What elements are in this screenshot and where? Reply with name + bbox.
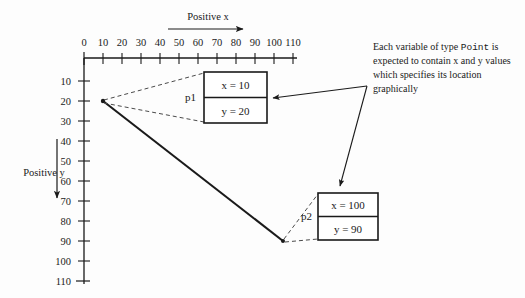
x-axis-group: 0 10 20 30 40 50 60 70 80 90 100 110 Pos… (81, 11, 300, 65)
p1-name-label: p1 (185, 91, 196, 103)
x-tick-label-60: 60 (193, 37, 204, 48)
annotation-line-1-before: Each variable of type (373, 41, 461, 52)
y-tick-label-10: 10 (61, 76, 72, 87)
y-tick-label-20: 20 (61, 96, 72, 107)
x-tick-label-70: 70 (212, 37, 223, 48)
p2-x-value: x = 100 (331, 199, 365, 211)
coordinate-diagram: 0 10 20 30 40 50 60 70 80 90 100 110 Pos… (0, 0, 525, 298)
x-tick-label-20: 20 (117, 37, 128, 48)
x-tick-label-10: 10 (98, 37, 109, 48)
p2-leader-bottom (285, 239, 318, 242)
x-tick-label-40: 40 (155, 37, 166, 48)
x-tick-label-0: 0 (81, 37, 86, 48)
annotation-note: Each variable of type Point is expected … (373, 41, 511, 94)
y-tick-label-50: 50 (61, 156, 72, 167)
positive-x-caption: Positive x (187, 11, 229, 22)
p2-name-label: p2 (301, 210, 312, 222)
point-marker-p2 (281, 239, 285, 243)
annotation-line-2: expected to contain x and y values (373, 55, 511, 66)
positive-y-caption: Positive y (23, 167, 65, 178)
y-tick-label-40: 40 (61, 136, 72, 147)
point-box-p1: x = 10 y = 20 (204, 72, 267, 123)
y-tick-label-70: 70 (61, 196, 72, 207)
annotation-line-4: graphically (373, 83, 418, 94)
annotation-line-1: Each variable of type Point is (373, 41, 499, 53)
annotation-line-1-mono: Point (461, 42, 490, 53)
annotation-arrow-to-p1 (273, 86, 367, 98)
p2-y-value: y = 90 (334, 223, 363, 235)
x-tick-label-80: 80 (231, 37, 242, 48)
x-tick-label-110: 110 (285, 37, 300, 48)
x-tick-label-30: 30 (136, 37, 147, 48)
x-tick-label-50: 50 (174, 37, 185, 48)
y-axis-group: 10 20 30 40 50 60 70 80 90 100 110 Posit… (23, 58, 90, 287)
figure-canvas: 0 10 20 30 40 50 60 70 80 90 100 110 Pos… (0, 0, 525, 298)
p1-x-value: x = 10 (221, 79, 250, 91)
p1-y-value: y = 20 (221, 105, 250, 117)
annotation-line-3: which specifies its location (373, 69, 482, 80)
y-tick-label-80: 80 (61, 216, 72, 227)
y-tick-label-90: 90 (61, 236, 72, 247)
y-tick-label-30: 30 (61, 116, 72, 127)
x-tick-label-100: 100 (266, 37, 282, 48)
point-box-p2: x = 100 y = 90 (318, 193, 378, 240)
annotation-line-1-after: is (489, 41, 498, 52)
annotation-arrow-to-p2 (340, 86, 367, 186)
x-tick-label-90: 90 (250, 37, 261, 48)
y-tick-label-110: 110 (56, 276, 71, 287)
y-tick-label-100: 100 (55, 256, 71, 267)
